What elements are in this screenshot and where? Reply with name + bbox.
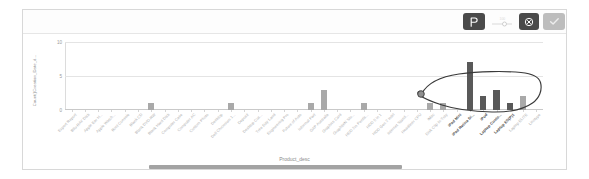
horizontal-scrollbar-track[interactable] <box>65 165 543 169</box>
y-tick-label: 0 <box>59 108 62 113</box>
x-axis-label[interactable]: iPod <box>479 112 489 122</box>
confirm-selection-button[interactable] <box>543 13 565 30</box>
plot-area[interactable]: 0510 <box>65 42 543 110</box>
chart-window: 100 Count()Creation_Date_d... 0510 Expor… <box>22 9 567 170</box>
cancel-selection-button[interactable] <box>519 13 539 30</box>
bar[interactable] <box>520 96 526 110</box>
cancel-circle-icon <box>524 17 534 27</box>
bar[interactable] <box>361 103 367 110</box>
zoom-slider-icon: 100 <box>491 15 513 28</box>
horizontal-scrollbar-thumb[interactable] <box>149 165 402 169</box>
bar[interactable] <box>148 103 154 110</box>
svg-text:100: 100 <box>500 17 506 21</box>
checkmark-icon <box>549 17 560 26</box>
bar[interactable] <box>493 90 499 110</box>
lasso-select-button[interactable] <box>463 13 485 30</box>
bar[interactable] <box>480 96 486 110</box>
bar[interactable] <box>467 62 473 110</box>
bar-chart: Count()Creation_Date_d... 0510 Export Re… <box>23 34 566 169</box>
y-tick-label: 5 <box>59 74 62 79</box>
bar[interactable] <box>321 90 327 110</box>
x-axis-label[interactable]: Linotype <box>528 112 542 126</box>
bar[interactable] <box>440 103 446 110</box>
gridline <box>65 42 543 43</box>
bar[interactable] <box>427 103 433 110</box>
x-axis-title: Product_desc <box>23 156 566 162</box>
x-axis-label[interactable]: iMac <box>426 112 435 121</box>
selection-toolbar: 100 <box>23 10 566 34</box>
zoom-slider-control[interactable]: 100 <box>490 13 514 30</box>
bar[interactable] <box>228 103 234 110</box>
x-axis-tick-labels: Export ReportBllu-RAY DiskApple Ear H...… <box>65 112 543 152</box>
lasso-select-icon <box>470 17 479 27</box>
y-axis-title: Count()Creation_Date_d... <box>32 36 37 126</box>
bar[interactable] <box>507 103 513 110</box>
y-tick-label: 10 <box>57 40 62 45</box>
bar[interactable] <box>308 103 314 110</box>
